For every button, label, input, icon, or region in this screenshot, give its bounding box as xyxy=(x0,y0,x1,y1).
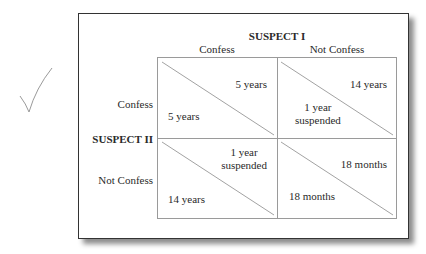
payoff-suspect-two: 14 years xyxy=(168,193,205,206)
payoff-suspect-two: 18 months xyxy=(289,190,335,203)
payoff-suspect-two: 5 years xyxy=(168,110,199,123)
column-header-not-confess: Not Confess xyxy=(310,43,365,55)
payoff-suspect-one: 18 months xyxy=(341,158,387,171)
payoff-suspect-one: 1 year suspended xyxy=(221,146,267,172)
diagonal-divider xyxy=(158,58,278,139)
check-mark-icon xyxy=(14,60,54,120)
row-header-confess: Confess xyxy=(118,98,153,110)
payoff-grid: 5 years 5 years 14 years 1 year suspende… xyxy=(157,57,397,219)
payoff-line: 1 year xyxy=(221,146,267,159)
payoff-line: 1 year xyxy=(295,101,341,114)
suspect-one-title: SUSPECT I xyxy=(249,30,305,42)
diagonal-divider xyxy=(277,138,397,219)
payoff-line: suspended xyxy=(221,159,267,172)
cell-confess-confess: 5 years 5 years xyxy=(158,58,278,139)
payoff-suspect-one: 14 years xyxy=(350,78,387,91)
column-header-confess: Confess xyxy=(199,43,234,55)
payoff-suspect-two: 1 year suspended xyxy=(295,101,341,127)
payoff-line: suspended xyxy=(295,114,341,127)
row-header-not-confess: Not Confess xyxy=(98,174,153,186)
cell-notconfess-notconfess: 18 months 18 months xyxy=(277,138,397,219)
cell-notconfess-confess: 1 year suspended 14 years xyxy=(158,138,278,219)
payoff-suspect-one: 5 years xyxy=(236,78,267,91)
cell-confess-notconfess: 14 years 1 year suspended xyxy=(277,58,397,139)
suspect-two-title: SUSPECT II xyxy=(92,133,153,145)
